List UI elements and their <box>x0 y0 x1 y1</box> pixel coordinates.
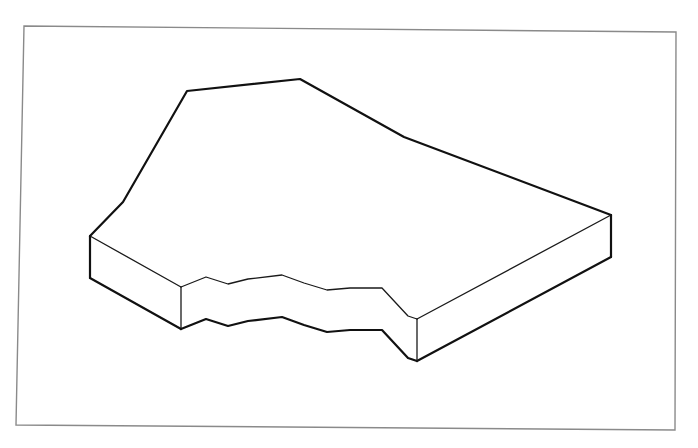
slab-top-face <box>90 79 611 319</box>
left-block-bottom-edge <box>90 278 181 329</box>
slab-diagram <box>0 0 698 448</box>
broken-edge-bottom <box>181 317 417 361</box>
